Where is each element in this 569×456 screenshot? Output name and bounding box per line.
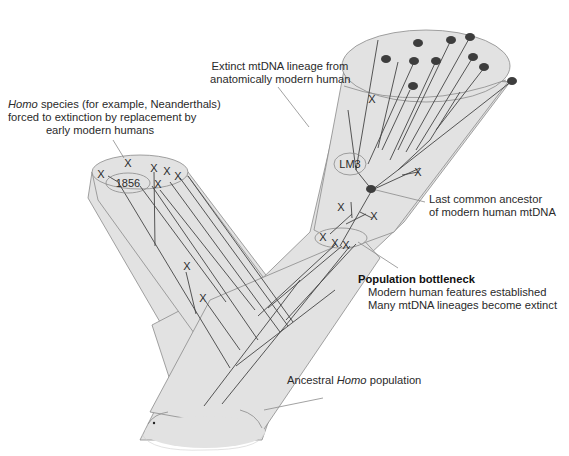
x-marker: X bbox=[154, 178, 162, 190]
extinct-lineage-line1: Extinct mtDNA lineage from bbox=[210, 60, 350, 73]
specimen-1856-label: 1856 bbox=[116, 177, 140, 189]
x-marker: X bbox=[150, 162, 158, 174]
node bbox=[413, 39, 423, 47]
x-marker: X bbox=[124, 157, 132, 169]
node bbox=[468, 53, 478, 61]
last-common-ancestor-node bbox=[366, 185, 376, 193]
node bbox=[507, 77, 517, 85]
small-dot bbox=[153, 422, 155, 424]
bottleneck-label: Population bottleneck Modern human featu… bbox=[358, 273, 557, 312]
homo-species-line1-rest: species (for example, Neanderthals) bbox=[38, 98, 221, 110]
x-marker: X bbox=[163, 165, 171, 177]
x-marker: X bbox=[370, 210, 378, 222]
lca-line2: of modern human mtDNA bbox=[429, 206, 556, 219]
node bbox=[446, 36, 456, 44]
ancestral-italic: Homo bbox=[337, 374, 367, 386]
x-marker: X bbox=[414, 166, 422, 178]
x-marker: X bbox=[97, 168, 105, 180]
specimen-lm3-label: LM3 bbox=[339, 158, 360, 170]
ancestral-label: Ancestral Homo population bbox=[287, 374, 421, 387]
bottleneck-title: Population bottleneck bbox=[358, 273, 557, 286]
x-marker: X bbox=[199, 292, 207, 304]
lca-line1: Last common ancestor bbox=[429, 193, 556, 206]
homo-species-line1: Homo species (for example, Neanderthals) bbox=[8, 98, 192, 111]
ancestral-prefix: Ancestral bbox=[287, 374, 337, 386]
node bbox=[465, 33, 475, 41]
x-marker: X bbox=[337, 201, 345, 213]
homo-italic: Homo bbox=[8, 98, 38, 110]
homo-species-label: Homo species (for example, Neanderthals)… bbox=[8, 98, 192, 137]
extinct-lineage-line2: anatomically modern human bbox=[210, 73, 350, 86]
homo-species-line3: early modern humans bbox=[8, 124, 192, 137]
extinct-lineage-label: Extinct mtDNA lineage from anatomically … bbox=[210, 60, 350, 86]
node bbox=[408, 82, 418, 90]
ancestral-suffix: population bbox=[367, 374, 422, 386]
x-marker: X bbox=[331, 237, 339, 249]
node bbox=[409, 57, 419, 65]
ancestral-bottom-ellipse bbox=[145, 416, 265, 448]
x-marker: X bbox=[174, 170, 182, 182]
x-marker: X bbox=[368, 93, 376, 105]
bottleneck-line2: Many mtDNA lineages become extinct bbox=[358, 299, 557, 312]
x-marker: X bbox=[183, 260, 191, 272]
homo-species-line2: forced to extinction by replacement by bbox=[8, 111, 192, 124]
last-common-ancestor-label: Last common ancestor of modern human mtD… bbox=[429, 193, 556, 219]
bottleneck-line1: Modern human features established bbox=[358, 286, 557, 299]
node bbox=[381, 55, 391, 63]
x-marker: X bbox=[342, 239, 350, 251]
node bbox=[431, 57, 441, 65]
x-marker: X bbox=[319, 231, 327, 243]
node bbox=[479, 63, 489, 71]
